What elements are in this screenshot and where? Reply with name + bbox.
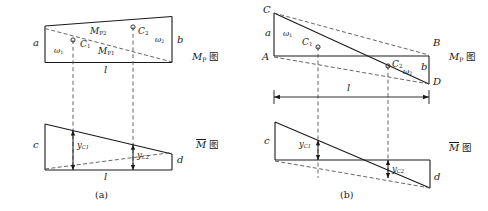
panel-a-moment1-sub: P1 bbox=[107, 50, 114, 56]
panel-a-mbar-span-label: l bbox=[104, 172, 107, 182]
panel-a-ordinate2-sub: C2 bbox=[142, 154, 149, 160]
panel-a-centroid2-label: C2 bbox=[138, 27, 148, 37]
panel-b-vertex-a: A bbox=[262, 52, 269, 62]
panel-b-mbar-title-symbol: M bbox=[449, 143, 459, 153]
panel-b-ordinate1-label: yC1 bbox=[299, 140, 311, 150]
panel-a-mp-title-symbol: M bbox=[192, 51, 202, 62]
panel-b-mp-title-sub: P bbox=[459, 56, 463, 63]
panel-a-centroid2-symbol: C bbox=[138, 26, 145, 36]
panel-b-edge-left-label: a bbox=[265, 28, 271, 38]
panel-b-mp-title: MP图 bbox=[449, 52, 476, 63]
panel-b-projection-lines bbox=[318, 47, 388, 178]
panel-a-moment1-symbol: M bbox=[98, 46, 107, 56]
panel-a-area1-sub: 1 bbox=[60, 50, 63, 55]
panel-b-vertex-c: C bbox=[263, 5, 271, 15]
panel-b-mp-title-cjk: 图 bbox=[466, 51, 476, 62]
panel-b-centroid2-sub: 2 bbox=[399, 63, 403, 69]
panel-a-centroid1-sub: 1 bbox=[87, 43, 91, 49]
panel-b-area2-sub: 2 bbox=[409, 71, 412, 76]
panel-a-mp-title: MP图 bbox=[192, 52, 219, 63]
panel-b-mbar-title: M图 bbox=[449, 143, 472, 153]
panel-a-ordinate2-label: yC2 bbox=[137, 151, 149, 161]
panel-a-mbar-right-label: d bbox=[177, 155, 183, 165]
panel-a-moment1-label: MP1 bbox=[98, 47, 115, 57]
panel-a-ordinate1-label: yC1 bbox=[77, 141, 89, 151]
panel-a-edge-right-label: b bbox=[177, 35, 183, 45]
panel-a-mbar-shape bbox=[45, 124, 172, 170]
panel-b-centroid2-symbol: C bbox=[392, 59, 399, 69]
panel-a-area1-label: ω1 bbox=[54, 47, 63, 56]
panel-b-vertex-b: B bbox=[433, 38, 440, 48]
panel-b-mbar-title-cjk: 图 bbox=[462, 142, 472, 153]
panel-b-ordinate1-sub: C1 bbox=[304, 143, 311, 149]
panel-a-moment2-label: MP2 bbox=[90, 27, 107, 37]
panel-b-edge-right-label: b bbox=[421, 62, 427, 72]
panel-a-centroid1-label: C1 bbox=[80, 40, 90, 50]
panel-a-edge-left-label: a bbox=[33, 38, 39, 48]
panel-a-mbar-left-label: c bbox=[33, 140, 39, 150]
panel-b-centroid1-label: C1 bbox=[302, 38, 312, 48]
panel-b-centroid1-symbol: C bbox=[302, 37, 309, 47]
panel-a-mbar-title-cjk: 图 bbox=[209, 139, 219, 150]
panel-b-centroid1-sub: 1 bbox=[309, 41, 313, 47]
panel-a-mp-span-label: l bbox=[104, 65, 107, 75]
figure-drawing bbox=[0, 0, 488, 211]
panel-b-area2-label: ω2 bbox=[403, 68, 412, 77]
panel-b-span-label: l bbox=[347, 83, 350, 93]
panel-a-centroid2-sub: 2 bbox=[145, 30, 149, 36]
panel-b-mp-title-symbol: M bbox=[449, 51, 459, 62]
panel-a-moment2-symbol: M bbox=[90, 26, 99, 36]
panel-b-mbar-right-label: d bbox=[434, 172, 440, 182]
panel-a-mp-title-sub: P bbox=[202, 56, 206, 63]
panel-b-caption: (b) bbox=[340, 190, 354, 200]
panel-a-area2-sub: 2 bbox=[161, 39, 164, 44]
panel-b-dimension-line bbox=[274, 90, 429, 104]
panel-b-ordinate-arrows bbox=[316, 140, 390, 178]
panel-b-mbar-left-label: c bbox=[264, 136, 270, 146]
panel-b-mbar-shape bbox=[275, 122, 430, 188]
panel-b-vertex-d: D bbox=[433, 77, 441, 87]
panel-b-centroid2-label: C2 bbox=[392, 60, 402, 70]
panel-b-ordinate2-label: yC2 bbox=[392, 165, 404, 175]
panel-b-ordinate2-sub: C2 bbox=[397, 168, 404, 174]
panel-a-ordinate1-sub: C1 bbox=[82, 144, 89, 150]
panel-a-area2-label: ω2 bbox=[155, 36, 164, 45]
panel-a-mp-title-cjk: 图 bbox=[209, 51, 219, 62]
panel-b-area1-label: ω1 bbox=[283, 30, 292, 39]
panel-a-mbar-title-symbol: M bbox=[196, 140, 206, 150]
figure-root: a b ω1 ω2 C1 C2 MP1 MP2 l MP图 c d yC1 yC… bbox=[0, 0, 488, 211]
panel-a-mbar-title: M图 bbox=[196, 140, 219, 150]
panel-a-moment2-sub: P2 bbox=[99, 30, 106, 36]
panel-b-area1-sub: 1 bbox=[289, 33, 292, 38]
panel-a-centroid1-symbol: C bbox=[80, 39, 87, 49]
panel-a-caption: (a) bbox=[95, 190, 108, 200]
